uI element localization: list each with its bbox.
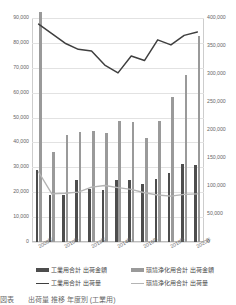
left-axis-tick-label: 70,000	[13, 65, 29, 70]
right-axis-tick-label: 200,000	[207, 127, 226, 132]
legend-item-industrial-value[interactable]: 工業用合計 出荷金額	[36, 266, 107, 274]
legend-swatch-line-light-icon	[131, 283, 144, 284]
legend-row-1: 工業用合計 出荷金額 環境浄化用合計 出荷金額	[0, 266, 236, 279]
right-axis-tick-label: 50,000	[207, 211, 223, 216]
chart-legend: 工業用合計 出荷金額 環境浄化用合計 出荷金額 工業用合計 出荷量 環境浄化用合…	[0, 266, 236, 296]
clipped-footer-text: 図表 出荷量 推移 年度別 (工業用)	[0, 296, 116, 304]
legend-swatch-bar-mid-icon	[131, 268, 144, 272]
line-series-group	[32, 18, 204, 242]
right-axis-tick-label: 300,000	[207, 71, 226, 76]
line-series[interactable]	[39, 24, 198, 73]
x-axis-labels: 2008年2010年2012年2014年2016年2018年2020年	[32, 244, 204, 260]
left-axis-tick-label: 20,000	[13, 190, 29, 195]
legend-item-env-volume[interactable]: 環境浄化用合計 出荷量	[131, 279, 208, 287]
plot-area: 010,00020,00030,00040,00050,00060,00070,…	[32, 18, 204, 242]
right-axis-tick-label: 150,000	[207, 155, 226, 160]
clipped-footer-strip: 図表 出荷量 推移 年度別 (工業用)	[0, 296, 236, 305]
legend-label: 工業用合計 出荷金額	[51, 266, 107, 274]
right-axis-tick-label: 400,000	[207, 15, 226, 20]
legend-swatch-line-dark-icon	[36, 283, 49, 284]
legend-item-env-value[interactable]: 環境浄化用合計 出荷金額	[131, 266, 214, 274]
line-series[interactable]	[39, 172, 198, 196]
left-axis-tick-label: 50,000	[13, 115, 29, 120]
legend-row-2: 工業用合計 出荷量 環境浄化用合計 出荷量	[0, 279, 236, 292]
left-axis-tick-label: 30,000	[13, 165, 29, 170]
left-axis-tick-label: 90,000	[13, 15, 29, 20]
left-axis-tick-label: 10,000	[13, 215, 29, 220]
legend-label: 工業用合計 出荷量	[51, 279, 101, 287]
right-axis-tick-label: 100,000	[207, 183, 226, 188]
right-axis-tick-label: 350,000	[207, 43, 226, 48]
left-axis-tick-label: 60,000	[13, 90, 29, 95]
legend-item-industrial-volume[interactable]: 工業用合計 出荷量	[36, 279, 101, 287]
legend-swatch-bar-dark-icon	[36, 268, 49, 272]
legend-label: 環境浄化用合計 出荷金額	[146, 266, 214, 274]
legend-label: 環境浄化用合計 出荷量	[146, 279, 208, 287]
left-axis-tick-label: 40,000	[13, 140, 29, 145]
plot-area-wrapper: 010,00020,00030,00040,00050,00060,00070,…	[0, 0, 236, 262]
left-axis-tick-label: 0	[26, 239, 29, 244]
right-axis-tick-label: 250,000	[207, 99, 226, 104]
left-axis-tick-label: 80,000	[13, 40, 29, 45]
chart-container: 010,00020,00030,00040,00050,00060,00070,…	[0, 0, 236, 305]
